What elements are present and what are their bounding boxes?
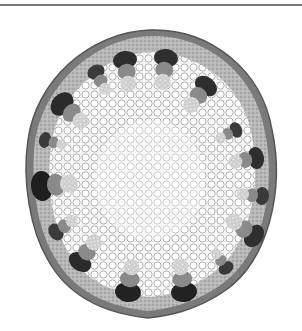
stem-cross-section bbox=[0, 0, 302, 331]
pith-center bbox=[95, 120, 205, 240]
